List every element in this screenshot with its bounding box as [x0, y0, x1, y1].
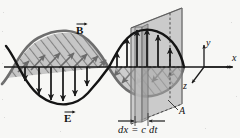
axis-label-z: z	[183, 81, 187, 91]
e-vector-arrow-icon	[64, 110, 71, 114]
emwave-figure: B E x y z A dx = c dt	[0, 0, 240, 138]
dx-equation-label: dx = c dt	[118, 125, 158, 136]
area-label: A	[179, 106, 185, 116]
axis-label-x: x	[232, 53, 236, 63]
axis-label-y: y	[206, 38, 210, 48]
e-field-label: E	[64, 110, 71, 124]
b-vector-arrow-icon	[76, 22, 83, 26]
emwave-diagram-canvas	[0, 0, 240, 138]
b-field-label: B	[76, 22, 83, 36]
